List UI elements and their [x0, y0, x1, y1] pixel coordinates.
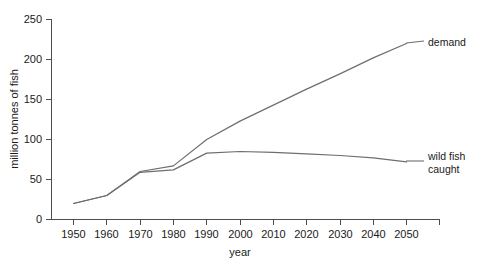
fish-demand-vs-catch-chart: 250 200 150 100 50 0 1950 1960 1970 — [0, 0, 479, 269]
x-tick-label-2010: 2010 — [261, 228, 285, 240]
x-tick-label-2040: 2040 — [361, 228, 385, 240]
y-axis-ticks — [46, 20, 52, 220]
y-tick-label-250: 250 — [24, 13, 42, 25]
series-label-wild-fish-line1: wild fish — [427, 150, 466, 162]
series-line-wild-fish-caught — [74, 152, 407, 204]
y-tick-label-150: 150 — [24, 93, 42, 105]
x-axis-tick-labels: 1950 1960 1970 1980 1990 2000 2010 2020 … — [61, 228, 418, 240]
x-tick-label-1950: 1950 — [61, 228, 85, 240]
x-tick-label-1960: 1960 — [94, 228, 118, 240]
x-tick-label-2000: 2000 — [228, 228, 252, 240]
x-axis-title: year — [229, 246, 251, 258]
x-tick-label-1980: 1980 — [161, 228, 185, 240]
x-tick-label-1970: 1970 — [128, 228, 152, 240]
x-axis-ticks — [74, 220, 440, 226]
x-tick-label-2020: 2020 — [294, 228, 318, 240]
y-axis-title: million tonnes of fish — [8, 69, 20, 169]
chart-plot-area: 250 200 150 100 50 0 1950 1960 1970 — [0, 0, 479, 269]
x-tick-label-2050: 2050 — [394, 228, 418, 240]
y-axis-tick-labels: 250 200 150 100 50 0 — [24, 13, 42, 225]
series-label-demand: demand — [428, 36, 466, 48]
y-tick-label-200: 200 — [24, 53, 42, 65]
series-label-wild-fish-line2: caught — [428, 163, 460, 175]
demand-leader-line — [406, 41, 424, 43]
series-line-demand — [74, 44, 407, 204]
y-tick-label-100: 100 — [24, 133, 42, 145]
x-tick-label-1990: 1990 — [194, 228, 218, 240]
y-tick-label-0: 0 — [36, 213, 42, 225]
x-tick-label-2030: 2030 — [328, 228, 352, 240]
y-tick-label-50: 50 — [30, 173, 42, 185]
